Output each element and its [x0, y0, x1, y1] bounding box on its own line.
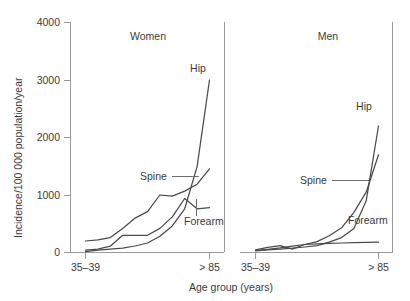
- series-line-men-spine: [256, 155, 379, 251]
- x-axis-title: Age group (years): [189, 281, 273, 293]
- y-tick-labels: 0 1000 2000 3000 4000: [37, 16, 61, 258]
- y-tick-label-4000: 4000: [37, 16, 61, 28]
- y-tick-label-2000: 2000: [37, 131, 61, 143]
- axis-group: [64, 22, 393, 259]
- annotations-men: Hip Spine Forearm: [300, 100, 388, 226]
- panel-title-men: Men: [318, 30, 339, 42]
- series-line-men-hip: [256, 126, 379, 251]
- series-group-men: [256, 126, 379, 251]
- series-label-men-hip: Hip: [356, 100, 372, 112]
- series-label-women-spine: Spine: [140, 170, 167, 182]
- series-label-women-hip: Hip: [190, 62, 206, 74]
- figure-container: 0 1000 2000 3000 4000 35–39 > 85 35–39 >…: [0, 0, 410, 301]
- x-tick-labels: 35–39 > 85 35–39 > 85: [71, 261, 389, 273]
- panel-title-women: Women: [130, 30, 166, 42]
- y-axis-title: Incidence/100 000 population/year: [12, 77, 24, 238]
- y-tick-label-0: 0: [54, 246, 60, 258]
- x-tick-label-men-end: > 85: [368, 261, 389, 273]
- x-tick-label-women-end: > 85: [199, 261, 220, 273]
- series-label-men-spine: Spine: [300, 174, 327, 186]
- x-tick-label-women-start: 35–39: [71, 261, 100, 273]
- series-label-men-forearm: Forearm: [348, 214, 388, 226]
- y-tick-label-3000: 3000: [37, 74, 61, 86]
- x-tick-label-men-start: 35–39: [241, 261, 270, 273]
- y-tick-label-1000: 1000: [37, 189, 61, 201]
- incidence-line-chart: 0 1000 2000 3000 4000 35–39 > 85 35–39 >…: [0, 0, 410, 301]
- series-label-women-forearm: Forearm: [184, 215, 224, 227]
